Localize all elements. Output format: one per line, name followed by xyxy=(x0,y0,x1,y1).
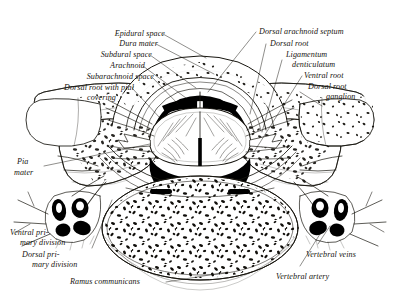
label-dorsal-root-ganglion: Dorsal root xyxy=(308,82,347,92)
label-dorsal-arachnoid-septum: Dorsal arachnoid septum xyxy=(259,27,344,37)
label-ventral-primary-line2: mary division xyxy=(20,238,65,248)
label-epidural-space: Epidural space xyxy=(0,29,165,39)
label-ligamentum: Ligamentum xyxy=(286,50,327,60)
label-subdural-space: Subdural space xyxy=(0,50,152,60)
label-dorsal-root-pial-line2: covering xyxy=(0,93,116,103)
epidural-vein-right xyxy=(228,189,250,194)
label-ventral-root: Ventral root xyxy=(304,71,344,81)
label-arachnoid: Arachnoid xyxy=(0,61,145,71)
label-ligamentum-line2: denticulatum xyxy=(292,60,335,70)
label-dorsal-primary: Dorsal pri- xyxy=(22,250,60,260)
label-ventral-primary: Ventral pri- xyxy=(10,228,49,238)
label-vertebral-veins: Vertebral veins xyxy=(306,250,356,260)
label-pia-mater: Pia xyxy=(17,157,28,167)
label-pia-mater-line2: mater xyxy=(14,168,33,178)
label-dorsal-root-pial: Dorsal root with pial xyxy=(0,83,134,93)
label-dorsal-root-ganglion-line2: ganglion xyxy=(326,92,355,102)
epidural-vein-left xyxy=(150,189,172,194)
label-dura-mater: Dura mater xyxy=(0,39,158,49)
spinal-cord xyxy=(149,108,250,166)
label-vertebral-artery: Vertebral artery xyxy=(276,272,329,282)
label-subarachnoid-space: Subarachnoid space xyxy=(0,72,154,82)
label-dorsal-primary-line2: mary division xyxy=(32,260,77,270)
label-dorsal-root: Dorsal root xyxy=(270,39,309,49)
label-ramus-communicans: Ramus communicans xyxy=(70,277,140,287)
ganglion-left xyxy=(26,98,101,146)
